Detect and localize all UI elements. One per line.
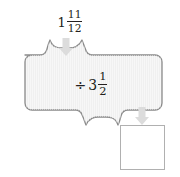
function-machine-diagram: 1 11 12 ÷ 3 1 2 [0, 0, 180, 177]
diagram-canvas [0, 0, 180, 177]
output-box[interactable] [121, 126, 165, 170]
